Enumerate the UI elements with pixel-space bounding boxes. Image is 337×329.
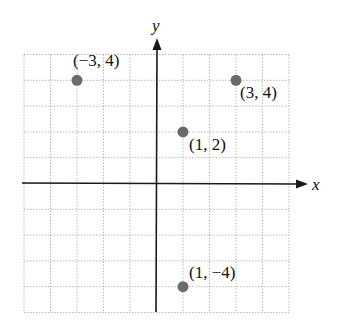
coordinate-plane: x y (−3, 4)(3, 4)(1, 2)(1, −4)	[0, 0, 337, 329]
point-label: (3, 4)	[240, 83, 277, 102]
x-axis	[22, 180, 308, 189]
data-points: (−3, 4)(3, 4)(1, 2)(1, −4)	[72, 51, 277, 292]
point-label: (1, 2)	[189, 135, 226, 154]
y-axis-label: y	[150, 16, 160, 35]
point-label: (−3, 4)	[73, 51, 119, 70]
point-label: (1, −4)	[189, 263, 235, 282]
data-point	[178, 281, 189, 292]
y-axis-arrow-icon	[153, 38, 162, 50]
data-point	[178, 126, 189, 137]
data-point	[72, 75, 83, 86]
y-axis	[153, 38, 162, 312]
x-axis-arrow-icon	[296, 180, 308, 189]
x-axis-label: x	[311, 175, 320, 194]
